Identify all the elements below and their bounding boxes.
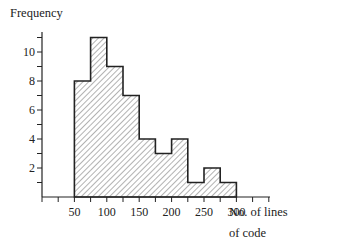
histogram-bar — [220, 183, 236, 198]
histogram-bar — [107, 67, 123, 198]
histogram-chart: 50100150200250300246810 — [0, 0, 343, 248]
y-tick-label: 2 — [29, 161, 35, 175]
histogram-bar — [91, 38, 107, 198]
histogram-bars — [74, 38, 236, 198]
x-tick-label: 300 — [227, 205, 245, 219]
x-tick-label: 150 — [130, 205, 148, 219]
x-tick-label: 250 — [195, 205, 213, 219]
histogram-bar — [123, 96, 139, 198]
y-tick-label: 6 — [29, 103, 35, 117]
x-tick-label: 50 — [68, 205, 80, 219]
histogram-bar — [172, 139, 188, 197]
y-tick-label: 4 — [29, 132, 35, 146]
y-tick-label: 10 — [23, 45, 35, 59]
histogram-bar — [139, 139, 155, 197]
histogram-bar — [74, 81, 90, 197]
histogram-bar — [155, 154, 171, 198]
histogram-bar — [204, 168, 220, 197]
y-tick-label: 8 — [29, 74, 35, 88]
x-tick-label: 200 — [163, 205, 181, 219]
x-tick-label: 100 — [98, 205, 116, 219]
histogram-bar — [188, 183, 204, 198]
